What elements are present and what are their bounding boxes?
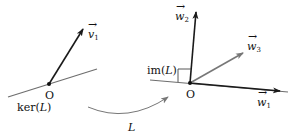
domain-panel: O ker(L) v1 → (8, 18, 99, 114)
vector-w3 (190, 53, 243, 83)
vector-w2-accent: → (176, 0, 185, 13)
origin-point-left (47, 82, 51, 86)
vector-w1-accent: → (258, 86, 267, 99)
right-angle-marker (178, 69, 191, 82)
kernel-label: ker(L) (17, 101, 51, 114)
vector-arrow-accent: → (88, 18, 97, 31)
vector-w3-accent: → (248, 30, 257, 43)
image-label: im(L) (147, 64, 177, 77)
origin-label-right: O (186, 88, 195, 101)
vector-w2 (190, 12, 196, 83)
map-label: L (127, 121, 135, 134)
origin-point-right (188, 81, 192, 85)
map-arrow: L (88, 97, 168, 134)
codomain-panel: O im(L) w2 → w3 → w1 → (147, 0, 288, 110)
linear-map-diagram: O ker(L) v1 → L O im(L) w2 → w3 → (0, 0, 300, 138)
vector-v1 (49, 29, 83, 84)
